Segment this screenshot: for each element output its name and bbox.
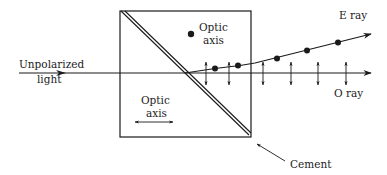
label-optic-bottom: Optic (141, 94, 170, 106)
optic-axis-dot-icon (188, 31, 194, 37)
label-cement: Cement (290, 158, 332, 170)
label-axis-bottom: axis (146, 107, 167, 119)
cement-pointer-arrow-icon (257, 144, 285, 161)
diagram-canvas: Unpolarized light Optic axis Optic axis … (0, 0, 387, 175)
label-light: light (37, 73, 62, 85)
label-o-ray: O ray (334, 87, 363, 99)
label-unpolarized: Unpolarized (19, 58, 84, 70)
label-optic-top: Optic (199, 21, 228, 33)
prism-diagram: Unpolarized light Optic axis Optic axis … (0, 0, 387, 175)
label-e-ray: E ray (339, 9, 367, 21)
label-axis-top: axis (203, 34, 224, 46)
